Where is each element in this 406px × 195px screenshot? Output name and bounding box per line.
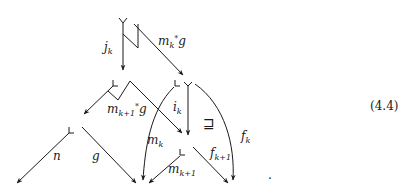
arrow-n xyxy=(17,133,69,183)
commutative-diagram xyxy=(0,0,406,195)
label-mk1-star-g: mk+1*g xyxy=(107,103,147,118)
label-ik: ik xyxy=(173,101,182,116)
label-g: g xyxy=(92,150,100,162)
label-n: n xyxy=(53,150,61,162)
label-mk1: mk+1 xyxy=(168,163,196,178)
arrow-g xyxy=(82,127,136,183)
trailing-period: . xyxy=(268,168,272,182)
top-node-fork-icon xyxy=(119,18,127,33)
zigzag-top xyxy=(123,24,138,48)
label-mk-star-g: mk*g xyxy=(158,35,186,50)
zigzag-mid xyxy=(108,81,130,100)
equation-number: (4.4) xyxy=(370,99,398,113)
mid-left-node-icon xyxy=(113,80,118,86)
mid-right-node-icon xyxy=(175,80,192,86)
label-jk: jk xyxy=(104,41,113,56)
lower-right-node-icon xyxy=(180,149,185,155)
arrow-fk xyxy=(195,84,233,180)
label-fk: fk xyxy=(241,130,250,145)
relation-symbol: ⊒ xyxy=(203,115,215,131)
lower-left-node-icon xyxy=(69,127,74,133)
label-mk: mk xyxy=(147,134,163,149)
label-fk1: fk+1 xyxy=(210,147,231,162)
